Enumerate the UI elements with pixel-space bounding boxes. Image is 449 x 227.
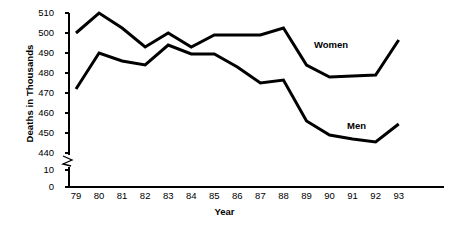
series-label-women: Women (314, 39, 348, 50)
x-tick-label-92: 92 (364, 191, 388, 201)
x-tick-label-86: 86 (225, 191, 249, 201)
y-tick-label-440: 440 (26, 148, 54, 158)
x-tick-label-87: 87 (248, 191, 272, 201)
x-tick-label-81: 81 (110, 191, 134, 201)
y-tick-label-480: 480 (26, 68, 54, 78)
y-tick-label-500: 500 (26, 28, 54, 38)
x-tick-label-82: 82 (133, 191, 157, 201)
y-tick-label-490: 490 (26, 48, 54, 58)
x-tick-label-79: 79 (64, 191, 88, 201)
line-chart: Deaths in Thousands Year 510500490480470… (0, 0, 449, 227)
y-tick-label-510: 510 (26, 8, 54, 18)
x-axis-tick-labels: 798081828384858687888990919293 (0, 191, 449, 205)
x-tick-label-93: 93 (387, 191, 411, 201)
x-tick-label-85: 85 (202, 191, 226, 201)
x-tick-label-83: 83 (156, 191, 180, 201)
x-tick-label-84: 84 (179, 191, 203, 201)
y-tick-label-460: 460 (26, 108, 54, 118)
axes-group (63, 13, 444, 187)
y-tick-label-470: 470 (26, 88, 54, 98)
y-tick-label-10: 10 (26, 165, 54, 175)
x-tick-label-91: 91 (341, 191, 365, 201)
x-tick-label-89: 89 (295, 191, 319, 201)
x-axis-title: Year (0, 206, 449, 217)
x-tick-label-88: 88 (271, 191, 295, 201)
y-axis-break-marker (63, 156, 72, 166)
y-tick-label-450: 450 (26, 128, 54, 138)
x-tick-label-90: 90 (318, 191, 342, 201)
series-label-men: Men (347, 120, 366, 131)
x-tick-label-80: 80 (87, 191, 111, 201)
